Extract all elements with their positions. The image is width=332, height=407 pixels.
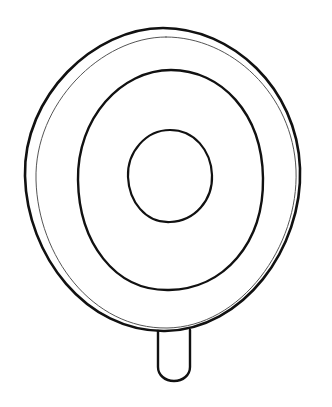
line-drawing: [0, 0, 332, 407]
drawing-canvas: [0, 0, 332, 407]
canvas-background: [0, 0, 332, 407]
